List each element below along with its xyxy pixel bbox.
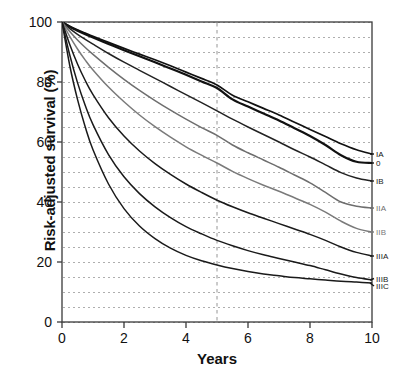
legend-label-ib: IB [376,177,384,186]
y-axis-title: Risk-adjusted survival (%) [41,16,58,306]
legend-label-iib: IIB [376,228,386,237]
survival-chart-figure: 020406080100 0246810 IA0IBIIAIIBIIIAIIIB… [0,0,402,374]
x-axis-title: Years [62,350,372,367]
legend-label-0: 0 [376,159,381,168]
y-tick-0: 0 [18,314,52,330]
legend-label-iia: IIA [376,204,386,213]
x-tick-6: 6 [228,330,268,346]
x-tick-2: 2 [104,330,144,346]
legend-label-ia: IA [376,150,384,159]
x-tick-10: 10 [352,330,392,346]
plot-canvas [0,0,402,374]
x-tick-4: 4 [166,330,206,346]
x-tick-8: 8 [290,330,330,346]
legend-label-iiia: IIIA [376,252,388,261]
x-tick-0: 0 [42,330,82,346]
legend-label-iiic: IIIC [376,282,389,291]
